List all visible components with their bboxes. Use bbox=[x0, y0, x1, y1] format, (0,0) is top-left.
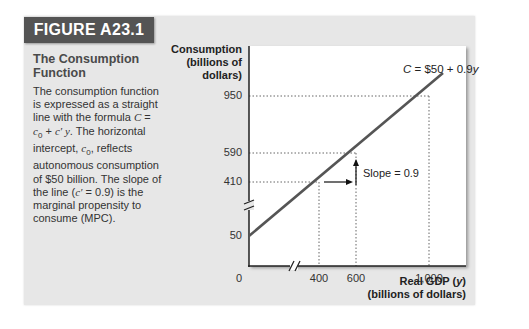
run-arrow-icon bbox=[324, 179, 353, 185]
equation-label: C = $50 + 0.9y bbox=[403, 63, 478, 75]
y-tick-50: 50 bbox=[202, 229, 242, 241]
x-axis-label: Real GDP (y) (billions of dollars) bbox=[330, 275, 466, 301]
y-axis-label: Consumption (billions of dollars) bbox=[160, 43, 242, 82]
rise-arrow-icon bbox=[353, 159, 359, 185]
y-tick-410: 410 bbox=[202, 175, 242, 187]
reference-lines bbox=[249, 96, 429, 266]
x-tick-0: 0 bbox=[219, 272, 259, 284]
y-tick-950: 950 bbox=[202, 89, 242, 101]
slope-label: Slope = 0.9 bbox=[363, 167, 419, 179]
consumption-line bbox=[249, 73, 443, 236]
y-tick-590: 590 bbox=[202, 146, 242, 158]
y-axis-break-icon bbox=[244, 200, 254, 210]
